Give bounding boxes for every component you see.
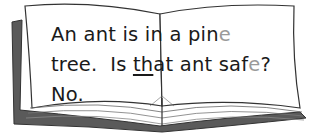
passage-line-2: tree. Is that ant safe? xyxy=(51,50,271,80)
silent-letter: e xyxy=(219,23,231,46)
underlined-digraph: th xyxy=(133,53,153,76)
passage: An ant is in a pine tree. Is that ant sa… xyxy=(51,20,271,110)
text: at ant saf xyxy=(153,53,248,76)
text: ? xyxy=(260,53,271,76)
text: An ant is in a pin xyxy=(51,23,219,46)
silent-letter: e xyxy=(248,53,260,76)
text: tree. Is xyxy=(51,53,133,76)
passage-line-1: An ant is in a pine xyxy=(51,20,271,50)
passage-line-3: No. xyxy=(51,80,271,110)
